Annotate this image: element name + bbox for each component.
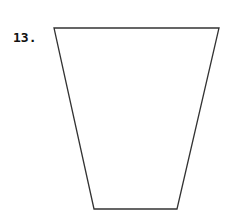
trapezoid-figure [0, 0, 233, 213]
trapezoid-shape [54, 28, 219, 209]
